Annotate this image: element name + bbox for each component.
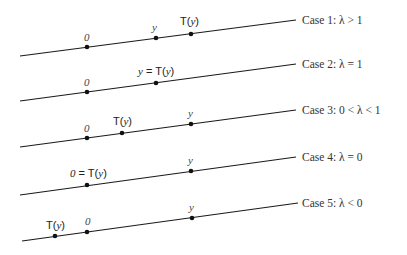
point-y [189, 122, 194, 127]
case-label: Case 3: 0 < λ < 1 [302, 104, 381, 116]
case-3-number-line: Case 3: 0 < λ < 10T(y)y [20, 104, 381, 147]
case-1-number-line: Case 1: λ > 10yT(y) [20, 14, 363, 56]
point-label-zero: 0 [84, 31, 90, 43]
point-T-of-y [189, 32, 194, 37]
point-zero [85, 136, 90, 141]
point-zero [85, 90, 90, 95]
point-y [154, 36, 159, 41]
point-label-y: y [187, 154, 193, 166]
point-label-T-of-y: T(y) [46, 219, 65, 231]
case-2-number-line: Case 2: λ = 10y = T(y) [20, 58, 363, 101]
point-y [190, 216, 195, 221]
point-label-zero: 0 [84, 76, 90, 88]
number-line [20, 157, 296, 195]
eigenvalue-cases-diagram: Case 1: λ > 10yT(y)Case 2: λ = 10y = T(y… [0, 0, 407, 255]
number-line [20, 110, 296, 147]
point-y [189, 169, 194, 174]
case-4-number-line: Case 4: λ = 00 = T(y)y [20, 151, 363, 195]
point-label-y: y [188, 201, 194, 213]
point-label-y: y [187, 107, 193, 119]
case-label: Case 4: λ = 0 [302, 151, 363, 163]
case-5-number-line: Case 5: λ < 0T(y)0y [22, 197, 363, 241]
point-y-equals-T-of-y [154, 81, 159, 86]
point-label-T-of-y: T(y) [113, 115, 132, 127]
case-label: Case 2: λ = 1 [302, 58, 363, 70]
point-zero-equals-T-of-y [85, 183, 90, 188]
point-zero [85, 45, 90, 50]
point-zero [85, 230, 90, 235]
point-label-zero: 0 [84, 122, 90, 134]
point-label-zero: 0 [85, 215, 91, 227]
point-label-zero-equals-T-of-y: 0 = T(y) [70, 167, 107, 179]
point-label-T-of-y: T(y) [180, 15, 199, 27]
point-T-of-y [53, 234, 58, 239]
point-label-y: y [151, 21, 157, 33]
case-label: Case 1: λ > 1 [302, 14, 363, 26]
point-label-y-equals-T-of-y: y = T(y) [137, 65, 174, 77]
case-label: Case 5: λ < 0 [302, 197, 363, 209]
point-T-of-y [120, 131, 125, 136]
